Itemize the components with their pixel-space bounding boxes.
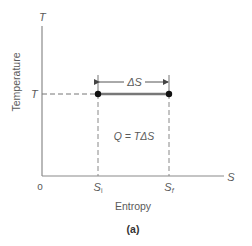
si-label-sub: i [101,187,103,194]
initial-state-point [95,91,101,97]
si-label: Si [94,181,103,194]
final-state-point [166,91,172,97]
sf-label: Sf [164,181,174,194]
temperature-level-label: T [31,88,39,100]
x-axis-symbol: S [227,171,235,183]
delta-s-label: ΔS [126,76,142,88]
heat-equation-label: Q = TΔS [114,130,155,142]
y-axis-label: Temperature [10,52,22,111]
y-axis-symbol: T [39,11,47,23]
x-axis-label: Entropy [115,200,152,212]
origin-label: o [37,181,43,192]
sf-label-sub: f [172,187,175,194]
figure-caption: (a) [127,223,140,235]
ts-diagram: T Temperature T ΔS Q = TΔS o Si Sf S Ent… [0,0,252,246]
